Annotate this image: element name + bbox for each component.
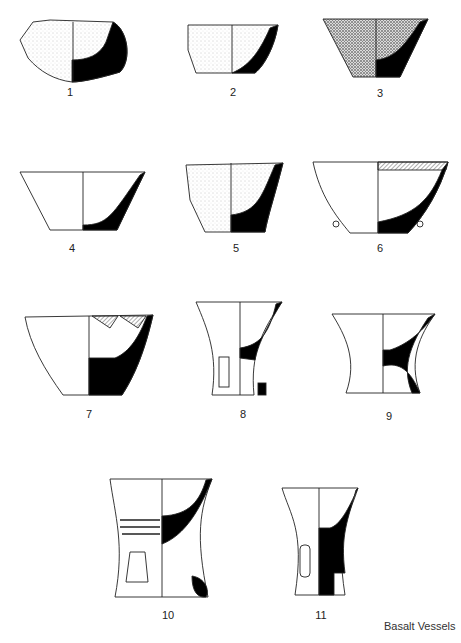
label-6: 6 bbox=[377, 242, 383, 254]
label-4: 4 bbox=[69, 242, 75, 254]
vessel-1 bbox=[20, 20, 127, 82]
vessel-4 bbox=[20, 172, 145, 230]
vessel-9 bbox=[332, 314, 435, 393]
figure-caption: Basalt Vessels bbox=[384, 620, 456, 632]
vessel-6 bbox=[313, 162, 448, 233]
label-2: 2 bbox=[230, 86, 236, 98]
label-8: 8 bbox=[240, 408, 246, 420]
vessel-2 bbox=[188, 25, 278, 73]
label-9: 9 bbox=[386, 410, 392, 422]
label-5: 5 bbox=[233, 242, 239, 254]
vessel-5 bbox=[186, 163, 283, 232]
label-10: 10 bbox=[162, 609, 174, 621]
vessel-8 bbox=[196, 302, 282, 395]
vessel-7 bbox=[25, 315, 153, 395]
label-3: 3 bbox=[377, 87, 383, 99]
vessel-10 bbox=[110, 479, 212, 597]
vessel-11 bbox=[282, 488, 358, 595]
label-1: 1 bbox=[67, 86, 73, 98]
label-7: 7 bbox=[86, 408, 92, 420]
label-11: 11 bbox=[315, 609, 326, 621]
vessel-3 bbox=[323, 19, 428, 77]
